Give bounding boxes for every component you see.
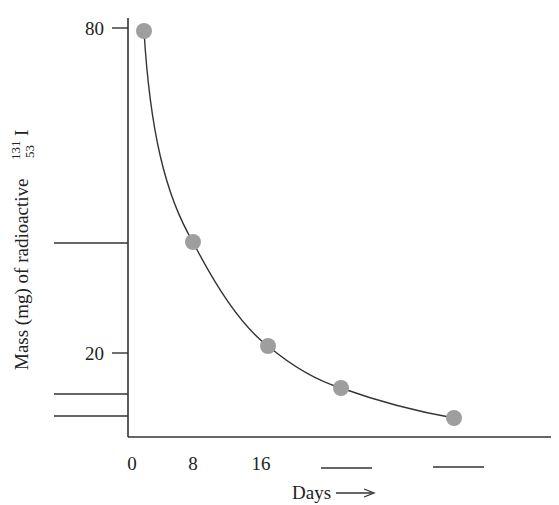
isotope-mass-number: 131 bbox=[8, 141, 23, 161]
right-arrow-icon bbox=[336, 489, 374, 497]
y-tick-label-80: 80 bbox=[85, 18, 104, 39]
x-tick-label-16: 16 bbox=[252, 453, 271, 474]
x-tick-label-8: 8 bbox=[188, 453, 198, 474]
decay-curve bbox=[144, 31, 454, 418]
data-point-day-8 bbox=[185, 234, 201, 250]
data-point-day-16 bbox=[260, 338, 276, 354]
x-axis-title: Days bbox=[292, 482, 331, 503]
isotope-symbol: I bbox=[11, 130, 32, 136]
data-point-day-32 bbox=[446, 410, 462, 426]
data-point-day-0 bbox=[136, 23, 152, 39]
y-axis-title-text: Mass (mg) of radioactive bbox=[11, 178, 33, 370]
data-point-day-24 bbox=[333, 380, 349, 396]
y-tick-label-20: 20 bbox=[85, 343, 104, 364]
x-tick-label-0: 0 bbox=[127, 453, 137, 474]
isotope-atomic-number: 53 bbox=[22, 145, 37, 158]
y-axis-title: Mass (mg) of radioactive 131 53 I bbox=[8, 130, 37, 370]
decay-chart: 80 20 0 8 16 Days Mass (mg) of radioacti… bbox=[0, 0, 559, 505]
